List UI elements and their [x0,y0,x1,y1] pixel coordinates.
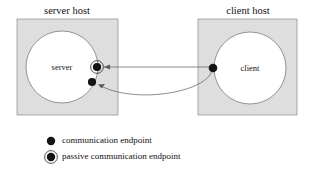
server-active-endpoint-dot[interactable] [88,78,96,86]
server-process-label: server [52,62,73,72]
communication-endpoint-icon [47,137,55,145]
passive-communication-endpoint-icon [47,153,55,161]
legend-item-label: passive communication endpoint [62,151,181,161]
legend-item-label: communication endpoint [62,135,152,145]
client-process-label: client [241,63,261,73]
legend-item-passive-communication-endpoint: passive communication endpoint [45,151,181,164]
legend-item-communication-endpoint: communication endpoint [47,135,152,145]
communication-endpoints-diagram: server host server client host client [0,0,309,172]
client-host-title: client host [226,5,270,16]
legend: communication endpoint passive communica… [45,135,181,163]
server-passive-endpoint-dot[interactable] [93,63,101,71]
server-host-group[interactable]: server host server [17,5,118,115]
client-endpoint-dot[interactable] [209,64,218,73]
server-host-title: server host [44,5,90,16]
client-host-group[interactable]: client host client [198,5,297,115]
diagram-canvas: server host server client host client [0,0,309,172]
